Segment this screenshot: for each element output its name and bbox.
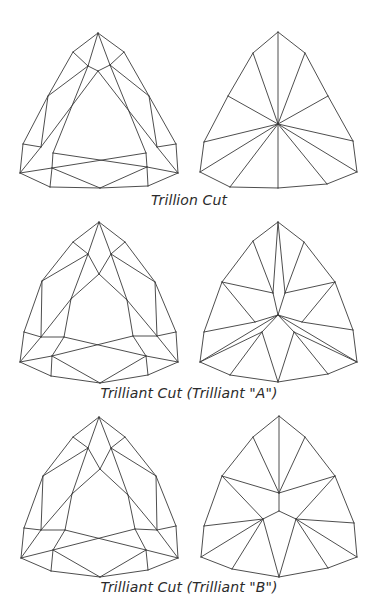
facet-edge [354,523,357,557]
facet-edge [279,416,305,437]
trilliant-b-crown-view [21,417,178,577]
facet-edge [302,322,353,330]
facet-edge [156,476,157,530]
facet-edge [23,144,41,147]
facet-edge [200,332,262,362]
facet-edge [157,332,176,336]
facet-edge [51,356,52,376]
facet-edge [279,511,296,519]
facet-edge [41,281,42,337]
facet-edge [327,172,357,184]
trilliant-b-pavilion-view [201,416,357,577]
facet-edge [156,476,176,526]
facet-edge [42,242,73,281]
facet-edge [20,168,52,173]
facet-edge [200,142,204,172]
facet-edge [21,558,51,571]
facet-edge [278,124,357,172]
facet-edge [335,282,353,330]
facet-edge [253,241,273,293]
facet-edge [148,362,178,375]
facet-edge [285,242,304,293]
facet-edge [232,569,279,577]
facet-edge [43,448,88,476]
facet-edge [278,332,294,382]
facet-edge [278,315,357,362]
facet-edge [41,71,98,147]
facet-edge [53,529,135,550]
facet-edge [73,33,98,52]
facet-edge [88,254,99,274]
facet-edge [204,476,222,526]
facet-edge [328,96,353,141]
facet-edge [200,172,230,187]
facet-edge [201,526,204,557]
facet-edge [296,519,354,523]
facet-edge [125,437,156,476]
facet-edge [278,32,305,53]
facet-edge [228,96,278,124]
facet-edge [273,222,278,293]
facet-edge [24,528,41,530]
caption-trilliant-a: Trilliant Cut (Trilliant "A") [0,385,378,401]
facet-edge [48,52,73,96]
facet-edge [41,476,43,530]
facet-edge [50,187,100,188]
facet-edge [147,167,148,186]
facet-edge [353,330,357,362]
facet-edge [65,530,146,550]
facet-edge [157,526,176,530]
facet-edge [65,494,72,530]
caption-trilliant-b: Trilliant Cut (Trilliant "B") [0,579,378,595]
facet-edge [279,476,335,493]
facet-edge [200,362,230,375]
facet-edge [100,570,148,577]
trilliant-a-pavilion-view [200,222,357,382]
facet-edge [42,254,88,281]
facet-edge [52,356,100,383]
facet-edge [328,557,357,568]
facet-edge [294,332,328,374]
facet-edge [279,519,296,577]
facet-edge [204,322,255,332]
facet-edge [24,476,43,528]
facet-edge [100,469,128,495]
facet-edge [127,300,133,336]
facet-edge [100,167,147,188]
facet-edge [201,519,263,557]
facet-edge [157,336,178,362]
facet-edge [99,254,111,274]
facet-edge [296,476,335,519]
facet-edge [148,173,178,186]
facet-edge [128,495,135,529]
facet-edge [100,550,146,577]
facet-edge [230,375,278,382]
facet-edge [53,550,100,577]
facet-edge [296,519,328,568]
facet-edge [110,52,124,65]
trillion-crown-view [20,33,178,188]
facet-edge [230,124,278,187]
trilliant-a-crown-view [20,222,178,383]
facet-edge [200,315,278,362]
facet-edge [304,242,335,282]
facet-edge [21,528,24,558]
facet-edge [41,494,72,530]
facet-edge [110,65,149,96]
facet-edge [100,186,148,188]
facet-edge [353,141,357,172]
facet-edge [124,52,149,96]
facet-edge [146,356,178,362]
facet-edge [135,529,157,530]
facet-edge [222,437,253,476]
facet-edge [278,374,328,382]
facet-edge [24,332,41,337]
facet-edge [64,299,71,337]
facet-edge [71,254,88,299]
facet-edge [253,222,278,241]
facet-edge [148,558,178,570]
facet-edge [278,222,304,242]
facet-edge [52,168,100,188]
facet-edge [128,495,157,530]
facet-edge [125,242,155,282]
